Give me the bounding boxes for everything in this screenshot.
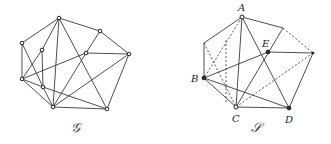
graph-edge bbox=[86, 31, 100, 53]
vertex-label-E: E bbox=[261, 38, 270, 49]
graph-edge bbox=[242, 17, 283, 28]
graph-edge bbox=[42, 18, 59, 50]
graph-g-edges bbox=[22, 18, 129, 109]
graph-g-label: 𝒢 bbox=[71, 120, 83, 135]
graph-edge bbox=[53, 53, 86, 107]
graph-vertex bbox=[234, 105, 238, 109]
graph-edge bbox=[22, 79, 53, 107]
graph-edge bbox=[22, 53, 86, 79]
graph-vertex bbox=[240, 15, 244, 19]
graph-vertex bbox=[266, 50, 270, 54]
graph-edge bbox=[204, 17, 242, 43]
vertex-label-A: A bbox=[237, 2, 245, 13]
graph-edge bbox=[42, 50, 43, 87]
graph-vertex bbox=[57, 16, 61, 20]
vertex-label-B: B bbox=[190, 73, 198, 84]
graph-edge bbox=[204, 78, 236, 107]
graph-vertex bbox=[40, 48, 44, 52]
vertex-label-D: D bbox=[284, 114, 293, 125]
graph-g-vertices bbox=[20, 16, 131, 111]
graph-edge bbox=[268, 52, 313, 53]
graph-vertex bbox=[287, 106, 291, 110]
graph-edge bbox=[236, 107, 289, 108]
graph-vertex bbox=[20, 41, 24, 45]
graph-vertex bbox=[105, 107, 109, 111]
graph-vertex bbox=[41, 85, 45, 89]
graph-edge bbox=[204, 52, 268, 78]
graph-edge bbox=[86, 53, 129, 54]
graph-edge bbox=[236, 28, 283, 107]
graph-edge bbox=[53, 18, 59, 107]
graph-edge bbox=[100, 31, 129, 54]
graph-edge bbox=[22, 18, 59, 43]
graph-vertex bbox=[127, 52, 131, 56]
graph-vertex bbox=[312, 52, 314, 54]
graph-vertex bbox=[20, 77, 24, 81]
graph-edge bbox=[289, 53, 313, 108]
vertex-label-C: C bbox=[232, 113, 240, 124]
graph-dashed-edge bbox=[204, 17, 242, 78]
graph-dashed-edge bbox=[283, 28, 313, 53]
graph-figure: 𝒢 AEBCD 𝒮 bbox=[0, 0, 331, 144]
graph-vertex bbox=[202, 76, 206, 80]
graph-edge bbox=[236, 17, 242, 107]
graph-vertex bbox=[98, 29, 102, 33]
graph-vertex bbox=[51, 105, 55, 109]
graph-edge bbox=[107, 54, 129, 109]
graph-vertex bbox=[84, 51, 88, 55]
graph-s-vertices bbox=[202, 15, 314, 110]
graph-s-label: 𝒮 bbox=[251, 120, 265, 135]
graph-s-edges bbox=[204, 17, 313, 108]
graph-edge bbox=[53, 107, 107, 109]
